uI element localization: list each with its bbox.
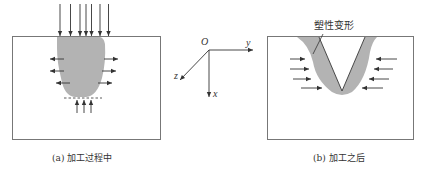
z-axis [180,50,209,80]
caption-a: (a) 加工过程中 [52,151,112,164]
y-axis-label: y [246,37,250,48]
downward-force-arrows [60,4,109,36]
caption-b: (b) 加工之后 [313,151,365,164]
z-axis-label: z [174,70,178,81]
x-axis-label: x [213,88,217,99]
panel-b [268,34,414,140]
plastic-zone-a [57,37,105,97]
upward-force-arrows [77,100,91,113]
panel-a [13,4,161,140]
plastic-deformation-label: 塑性变形 [314,17,354,32]
origin-label: O [201,36,208,47]
